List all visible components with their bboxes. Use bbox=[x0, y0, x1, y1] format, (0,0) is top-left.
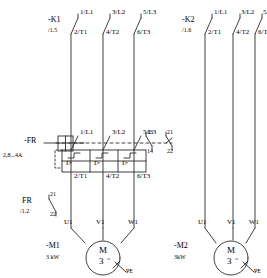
k1-terminal-4t2: 4/T2 bbox=[106, 29, 119, 37]
k2-terminal-3l2: 3/L2 bbox=[241, 9, 254, 17]
k1-terminal-5l3: 5/L3 bbox=[143, 9, 156, 17]
motor-m1-terminal-v1: V1 bbox=[96, 219, 105, 227]
k2-terminal-6t3: 6/T3 bbox=[258, 29, 267, 37]
fr-actuator bbox=[44, 136, 84, 151]
k2-terminal-5l3: 5/L3 bbox=[263, 9, 267, 17]
overload-aux-terminal-21: 21 bbox=[50, 191, 56, 199]
motor-m1-symbol-phases: 3 bbox=[99, 258, 104, 266]
fr-release-symbol-pole-3: I> bbox=[122, 160, 128, 168]
overload-aux-terminal-22: 22 bbox=[50, 211, 56, 219]
contactor-k1-designation: -K1 bbox=[48, 16, 60, 24]
overload-designation: -FR bbox=[24, 137, 36, 145]
fr-terminal-1l1: 1/L1 bbox=[80, 129, 93, 137]
overload-aux-cross-reference: /1.2 bbox=[20, 208, 29, 216]
fr-terminal-4t2: 4/T2 bbox=[106, 173, 119, 181]
motor-m1-power: 3 kW bbox=[46, 254, 59, 262]
k1-terminal-2t1: 2/T1 bbox=[74, 29, 87, 37]
motor-m2-designation: -M2 bbox=[174, 242, 188, 250]
fr-release-symbol-pole-1: I> bbox=[66, 160, 72, 168]
k1-terminal-3l2: 3/L2 bbox=[112, 9, 125, 17]
k2-pole-1 bbox=[205, 14, 212, 228]
k1-terminal-6t3: 6/T3 bbox=[137, 29, 150, 37]
fr-terminal-3l2: 3/L2 bbox=[112, 129, 125, 137]
motor-m1-terminal-u1: U1 bbox=[64, 219, 73, 227]
contactor-k2-cross-reference: /1.6 bbox=[182, 27, 191, 35]
fr-release-symbol-pole-2: I> bbox=[94, 160, 100, 168]
k2-terminal-2t1: 2/T1 bbox=[208, 29, 221, 37]
motor-m2-symbol-m: M bbox=[227, 247, 235, 255]
schematic-sheet: -K1 /1.5 1/L1 3/L2 5/L3 2/T1 4/T2 6/T3 -… bbox=[0, 0, 267, 278]
motor-m2-terminal-w1: W1 bbox=[249, 219, 259, 227]
motor-m1-earth-label: PE bbox=[126, 268, 133, 276]
k1-terminal-1l1: 1/L1 bbox=[80, 9, 93, 17]
overload-aux-designation: FR bbox=[22, 197, 32, 205]
motor-m1-terminal-w1: W1 bbox=[128, 219, 138, 227]
contactor-k2-designation: -K2 bbox=[182, 16, 194, 24]
motor-m1-symbol-m: M bbox=[99, 247, 107, 255]
overload-current-range: 2,8...4A bbox=[3, 152, 22, 160]
motor-m2-phase-mark: ~ bbox=[235, 256, 238, 264]
fr-terminal-6t3: 6/T3 bbox=[137, 173, 150, 181]
k1-pole-1 bbox=[71, 14, 78, 228]
motor-m1-designation: -M1 bbox=[46, 242, 60, 250]
fr-aux-no-terminal-14: 14 bbox=[147, 148, 153, 156]
fr-aux-nc-terminal-21: 21 bbox=[167, 129, 173, 137]
motor-m1-phase-mark: ~ bbox=[107, 256, 110, 264]
k2-terminal-1l1: 1/L1 bbox=[214, 9, 227, 17]
motor-m2-terminal-v1: V1 bbox=[227, 219, 236, 227]
motor-m2-terminal-u1: U1 bbox=[198, 219, 207, 227]
schematic-drawing bbox=[0, 0, 267, 278]
k1-pole-3 bbox=[134, 14, 141, 228]
contactor-k1-cross-reference: /1.5 bbox=[48, 27, 57, 35]
k2-pole-3 bbox=[255, 14, 262, 228]
motor-m2-symbol-phases: 3 bbox=[227, 258, 232, 266]
motor-m2-earth-label: PE bbox=[254, 268, 261, 276]
fr-aux-nc-terminal-22: 22 bbox=[167, 148, 173, 156]
fr-aux-no-terminal-13: 13 bbox=[147, 129, 153, 137]
fr-terminal-2t1: 2/T1 bbox=[74, 173, 87, 181]
k2-pole-2 bbox=[233, 14, 240, 228]
motor-m2-power: 3kW bbox=[174, 254, 186, 262]
k2-terminal-4t2: 4/T2 bbox=[236, 29, 249, 37]
k1-pole-2 bbox=[103, 14, 110, 228]
fr-contact-hooks bbox=[68, 153, 136, 158]
fr-dashed-bracket bbox=[55, 150, 62, 168]
